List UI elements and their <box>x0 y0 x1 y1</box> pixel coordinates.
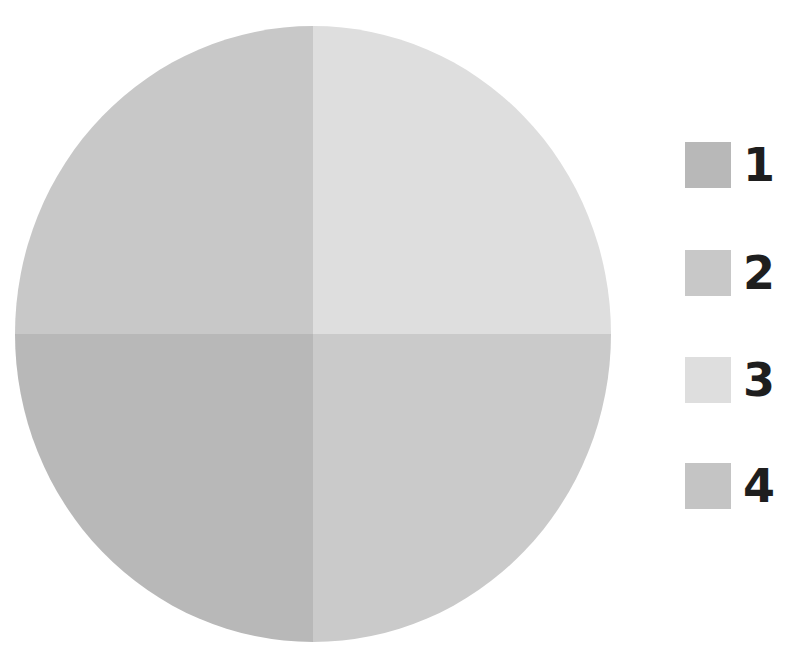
legend-swatch-1 <box>685 142 731 188</box>
legend-swatch-3 <box>685 357 731 403</box>
pie-slice-3 <box>313 26 611 334</box>
legend-label-1: 1 <box>743 142 775 188</box>
pie-plot-area <box>0 0 797 661</box>
legend-label-2: 2 <box>743 250 775 296</box>
legend-item-2: 2 <box>685 250 775 296</box>
legend-item-4: 4 <box>685 463 775 509</box>
legend-swatch-2 <box>685 250 731 296</box>
legend-item-1: 1 <box>685 142 775 188</box>
legend-label-3: 3 <box>743 357 775 403</box>
pie-chart: 1 2 3 4 <box>0 0 797 661</box>
pie-slice-1 <box>15 334 313 642</box>
legend-swatch-4 <box>685 463 731 509</box>
legend-label-4: 4 <box>743 463 775 509</box>
legend-item-3: 3 <box>685 357 775 403</box>
pie-slice-4 <box>313 334 611 642</box>
pie-slice-2 <box>15 26 313 334</box>
